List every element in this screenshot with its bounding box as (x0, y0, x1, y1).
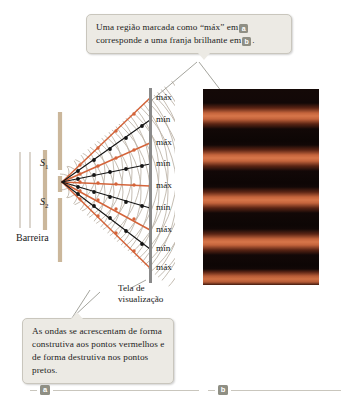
screen-marker-min-3: mín (156, 202, 170, 212)
screen-marker-min-2: mín (156, 158, 170, 168)
part-a-chip: a (40, 385, 50, 395)
inline-chip-a: a (239, 24, 248, 33)
viewing-screen-label-line2: visualização (118, 294, 163, 305)
part-b-chip: b (218, 385, 228, 395)
inline-chip-b: b (242, 37, 251, 46)
wavefronts-slit1 (0, 28, 204, 316)
slit-label-s1-sub: 1 (45, 163, 49, 171)
callout-constructive-destructive: As ondas se acrescentam de forma constru… (22, 318, 174, 384)
part-a-rule (53, 390, 199, 391)
destructive-line-min4 (62, 182, 150, 249)
viewing-screen-label-line1: Tela de (118, 283, 163, 294)
slit-label-s2: S2 (40, 196, 49, 210)
screen-marker-max-5: máx (156, 262, 172, 272)
part-marker-a: a (30, 385, 199, 395)
wavefronts-slit2 (0, 48, 204, 336)
interference-figure: Uma região marcada como “máx” ema corres… (0, 0, 346, 412)
screen-marker-max-3: máx (156, 180, 172, 190)
callout-top-text-2: corresponde a uma franja brilhante em (96, 35, 241, 45)
callout-top-text-3: . (252, 35, 254, 45)
part-a-pre-rule (30, 390, 37, 391)
viewing-screen-label: Tela de visualização (118, 283, 163, 305)
part-b-pre-rule (208, 390, 215, 391)
incoming-wavefronts (20, 152, 30, 228)
constructive-line-max4 (62, 182, 150, 230)
slit-label-s1: S1 (40, 157, 49, 171)
callout-top-tail (198, 53, 210, 60)
constructive-lines (62, 98, 150, 268)
screen-marker-max-1: máx (156, 92, 172, 102)
callout-top-text-1: Uma região marcada como “máx” em (96, 22, 238, 32)
constructive-line-max1 (62, 98, 150, 182)
screen-marker-min-4: mín (156, 243, 170, 253)
callout-bottom-text: As ondas se acrescentam de forma constru… (32, 326, 165, 375)
circular-wavefronts (0, 28, 204, 336)
part-b-rule (231, 390, 341, 391)
callout-max-bright-fringe: Uma região marcada como “máx” ema corres… (86, 14, 292, 54)
interference-fringe-photo (203, 89, 319, 285)
screen-marker-max-2: máx (156, 137, 172, 147)
barrier-label: Barreira (16, 232, 49, 243)
slit-label-s2-sub: 2 (45, 202, 49, 210)
part-marker-b: b (208, 385, 341, 395)
screen-marker-min-1: mín (156, 114, 170, 124)
callout-bottom-tail (71, 312, 83, 319)
screen-marker-max-4: máx (156, 224, 172, 234)
